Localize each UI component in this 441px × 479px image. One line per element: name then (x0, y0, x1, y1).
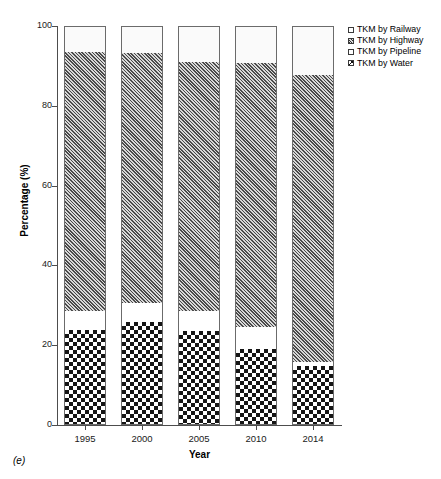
bar-2010 (235, 26, 277, 425)
bar-segment-2005-tkm-by-highway (178, 62, 220, 311)
y-tick-mark (52, 425, 57, 426)
bar-2005 (178, 26, 220, 425)
y-tick-label: 20 (26, 340, 52, 349)
legend-swatch-pipeline-icon (348, 49, 354, 55)
bar-2014 (292, 26, 334, 425)
x-tick-mark (85, 425, 86, 430)
bar-segment-2014-tkm-by-highway (292, 75, 334, 362)
x-tick-label: 2000 (112, 433, 172, 444)
x-axis-title: Year (57, 449, 342, 460)
y-tick-label: 100 (26, 21, 52, 30)
bar-segment-2000-tkm-by-railway (121, 26, 163, 53)
bar-segment-2010-tkm-by-highway (235, 63, 277, 327)
legend-item-pipeline: TKM by Pipeline (348, 46, 423, 57)
bar-segment-2014-tkm-by-railway (292, 26, 334, 75)
bar-segment-2010-tkm-by-railway (235, 26, 277, 63)
legend-swatch-highway-icon (348, 38, 354, 44)
x-tick-label: 2010 (226, 433, 286, 444)
bar-segment-2005-tkm-by-railway (178, 26, 220, 62)
legend-label: TKM by Railway (357, 24, 421, 35)
chart-legend: TKM by RailwayTKM by HighwayTKM by Pipel… (348, 24, 423, 69)
x-tick-mark (313, 425, 314, 430)
y-tick-label: 80 (26, 101, 52, 110)
bar-segment-1995-tkm-by-highway (64, 52, 106, 311)
x-tick-mark (199, 425, 200, 430)
legend-label: TKM by Water (357, 58, 413, 69)
legend-label: TKM by Pipeline (357, 46, 421, 57)
legend-item-railway: TKM by Railway (348, 24, 423, 35)
y-tick-label: 0 (26, 420, 52, 429)
legend-swatch-railway-icon (348, 27, 354, 33)
bar-segment-1995-tkm-by-pipeline (64, 311, 106, 330)
legend-swatch-water-icon (348, 60, 354, 66)
panel-label: (e) (13, 455, 25, 466)
bar-segment-2005-tkm-by-water (178, 331, 220, 425)
x-tick-label: 2014 (283, 433, 343, 444)
plot-area (57, 26, 341, 425)
bar-segment-2000-tkm-by-highway (121, 53, 163, 303)
y-axis-title: Percentage (%) (19, 131, 30, 271)
bar-1995 (64, 26, 106, 425)
bar-segment-2000-tkm-by-water (121, 322, 163, 425)
legend-label: TKM by Highway (357, 35, 423, 46)
bar-2000 (121, 26, 163, 425)
y-tick-label: 40 (26, 260, 52, 269)
y-tick-label: 60 (26, 181, 52, 190)
bar-segment-2010-tkm-by-pipeline (235, 327, 277, 349)
bar-segment-2014-tkm-by-pipeline (292, 362, 334, 366)
bar-segment-2014-tkm-by-water (292, 366, 334, 425)
x-tick-label: 1995 (55, 433, 115, 444)
bar-segment-2005-tkm-by-pipeline (178, 311, 220, 331)
figure-panel-e: 020406080100 19952000200520102014 Percen… (0, 0, 441, 479)
legend-item-water: TKM by Water (348, 58, 423, 69)
x-tick-mark (256, 425, 257, 430)
bar-segment-2000-tkm-by-pipeline (121, 303, 163, 322)
bar-segment-1995-tkm-by-railway (64, 26, 106, 52)
bar-segment-2010-tkm-by-water (235, 349, 277, 425)
x-tick-label: 2005 (169, 433, 229, 444)
legend-item-highway: TKM by Highway (348, 35, 423, 46)
bar-segment-1995-tkm-by-water (64, 330, 106, 425)
x-tick-mark (142, 425, 143, 430)
